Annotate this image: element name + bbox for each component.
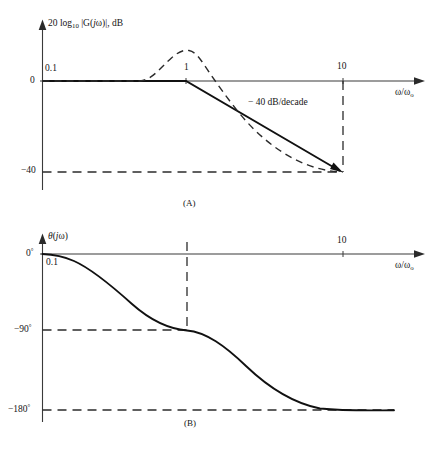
x-tick-label-0.1-A: 0.1	[45, 64, 57, 74]
x-axis-B	[40, 250, 425, 258]
y-axis-A	[39, 20, 47, 191]
y-tick-label-0-A: 0	[30, 76, 35, 86]
x-tick-label-1-A: 1	[184, 63, 189, 73]
slope-annotation-A: − 40 dB/decade	[248, 98, 308, 108]
x-tick-label-10-B: 10	[337, 236, 347, 246]
y-axis-label-A: 20 log10 |G(jω)|, dB	[48, 19, 123, 30]
actual-magnitude-curve	[43, 50, 342, 172]
magnitude-plot-A	[0, 0, 440, 230]
y-tick-label-minus180deg-B: −180°	[8, 404, 30, 414]
bode-plot-figure: 20 log10 |G(jω)|, dB ω/ωo 0 −40 0.1 1 10…	[0, 0, 440, 449]
panel-caption-B: (B)	[184, 419, 196, 428]
phase-curve	[43, 254, 395, 410]
y-tick-label-minus90deg-B: −90°	[14, 324, 32, 334]
asymptotic-magnitude-curve	[43, 81, 344, 173]
panel-caption-A: (A)	[183, 199, 196, 208]
x-axis-label-A: ω/ωo	[395, 88, 414, 99]
x-axis-label-B: ω/ωo	[395, 261, 414, 272]
y-tick-label-0deg-B: 0°	[26, 248, 33, 258]
x-tick-label-10-A: 10	[337, 62, 347, 72]
x-tick-label-0.1-B: 0.1	[46, 258, 58, 268]
phase-plot-B	[0, 230, 440, 449]
y-axis-label-B: θ(jω)	[48, 232, 68, 242]
y-tick-label-minus40-A: −40	[21, 166, 36, 176]
